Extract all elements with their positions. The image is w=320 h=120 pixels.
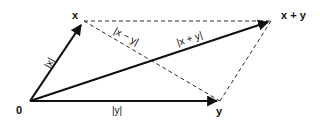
label-origin: 0 xyxy=(16,104,22,116)
label-norm-diff: |x − y| xyxy=(112,25,141,47)
vector-x xyxy=(30,25,81,101)
vector-sum xyxy=(30,22,268,101)
label-x: x xyxy=(72,9,79,21)
label-norm-y: |y| xyxy=(112,105,122,116)
label-norm-x: |x| xyxy=(42,56,57,70)
vector-parallelogram-diagram: 0 x y x + y |x| |y| |x + y| |x − y| xyxy=(0,0,320,120)
label-y: y xyxy=(216,105,223,117)
dashed-edge-right xyxy=(220,21,271,101)
label-sum: x + y xyxy=(281,9,307,21)
